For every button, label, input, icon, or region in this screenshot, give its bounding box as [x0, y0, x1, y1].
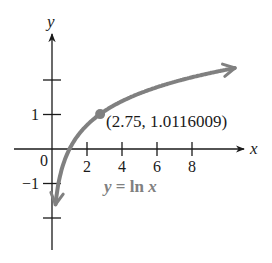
- y-tick-label: −1: [22, 175, 39, 192]
- y-tick-label: 1: [31, 106, 39, 123]
- ln-graph: x y 2468 −11 0 (2.75, 1.0116009) y = ln …: [0, 0, 272, 263]
- x-axis-label: x: [249, 139, 258, 158]
- x-tick-label: 8: [188, 158, 196, 175]
- highlight-point-label: (2.75, 1.0116009): [106, 112, 227, 131]
- function-label: y = ln x: [102, 177, 157, 196]
- x-tick-label: 6: [153, 158, 161, 175]
- x-tick-label: 4: [118, 158, 126, 175]
- highlight-point: [95, 109, 105, 119]
- y-axis-label: y: [45, 12, 55, 31]
- x-tick-label: 2: [83, 158, 91, 175]
- origin-label: 0: [40, 152, 48, 169]
- x-ticks: 2468: [83, 142, 196, 175]
